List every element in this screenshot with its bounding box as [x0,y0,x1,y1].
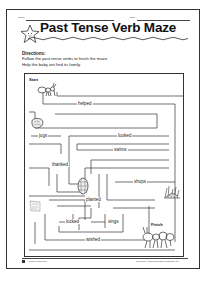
ant-family-icon [141,227,175,249]
baby-ant-icon [37,83,57,97]
maze-word-planted: planted [85,197,102,202]
start-label: Start [29,77,38,82]
maze-word-looked: looked [117,133,132,138]
name-label: Name [18,16,25,19]
footer-left: 18Verbs of Speech [22,260,46,263]
directions-text: Follow the past tense verbs to finish th… [22,56,172,67]
maze-word-jogs: jogs [38,133,48,138]
copyright-text: Copyright © 2005 Scholastic Publishing, … [136,260,179,262]
page-title: Past Tense Verb Maze [40,20,176,35]
maze-word-sings: sings [107,219,120,224]
footer-left-text: Verbs of Speech [28,260,46,263]
leaf-icon [28,199,42,213]
maze-word-wished: wished [85,237,101,242]
maze-word-thanked: thanked [51,162,69,167]
pinecone-icon [77,177,89,195]
grass-icon [163,185,181,199]
wavy-divider [28,36,188,41]
rock-icon [30,117,44,129]
maze-word-locked: locked [65,219,80,224]
footer-divider [22,258,188,259]
maze-word-swims: swims [113,147,128,152]
star-icon [19,24,41,44]
date-label: Date [130,16,135,19]
directions-line-2: Help the baby ant find its family. [22,62,172,68]
maze-word-shops: shops [133,179,147,184]
maze-area: Start Finish [24,73,184,257]
maze-word-helped: helped [77,101,93,106]
page-number-marker [22,260,25,263]
